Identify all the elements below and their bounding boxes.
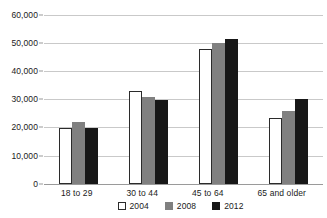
y-axis-tick-mark [39,127,43,128]
y-axis-tick-mark [39,71,43,72]
legend-swatch-icon [118,202,126,210]
legend-item-2004[interactable]: 2004 [118,201,149,211]
y-axis-tick-mark [39,156,43,157]
bar-groups [44,15,323,184]
chart-legend: 200420082012 [0,201,327,211]
bar-2008-65-and-older [282,111,295,184]
legend-label: 2012 [224,201,243,211]
bar-2012-18-to-29 [85,128,98,184]
legend-swatch-icon [165,202,173,210]
legend-label: 2008 [177,201,196,211]
bar-2004-30-to-44 [129,91,142,184]
x-axis-category-label: 18 to 29 [61,188,93,198]
bar-2012-65-and-older [295,99,308,184]
y-axis-tick-mark [39,99,43,100]
x-axis-category-label: 65 and older [258,188,306,198]
y-axis-tick-label: 20,000 [0,122,38,132]
y-axis-tick-label: 50,000 [0,38,38,48]
bar-2004-65-and-older [269,118,282,184]
y-axis-tick-mark [39,43,43,44]
bar-2012-30-to-44 [155,100,168,185]
bar-group [199,15,238,184]
x-axis-baseline [44,184,323,185]
plot-area [44,15,323,184]
legend-item-2012[interactable]: 2012 [212,201,243,211]
y-axis-tick-mark [39,184,43,185]
bar-group [129,15,168,184]
bar-2004-18-to-29 [59,128,72,184]
x-axis-category-label: 45 to 64 [192,188,224,198]
bar-group [59,15,98,184]
y-axis-tick-mark [39,15,43,16]
y-axis-tick-label: 0 [0,179,38,189]
bar-2008-30-to-44 [142,97,155,184]
y-axis-tick-label: 60,000 [0,10,38,20]
y-axis-tick-label: 10,000 [0,151,38,161]
legend-label: 2004 [130,201,149,211]
bar-group [269,15,308,184]
x-axis-category-label: 30 to 44 [127,188,159,198]
y-axis-labels: 60,000 50,000 40,000 30,000 20,000 10,00… [0,0,40,218]
bar-2008-45-to-64 [212,43,225,184]
legend-item-2008[interactable]: 2008 [165,201,196,211]
bar-2008-18-to-29 [72,122,85,184]
x-axis-labels: 18 to 2930 to 4445 to 6465 and older [44,188,323,198]
y-axis-tick-label: 30,000 [0,94,38,104]
bar-chart: 60,000 50,000 40,000 30,000 20,000 10,00… [0,0,327,218]
y-axis-tick-label: 40,000 [0,66,38,76]
legend-swatch-icon [212,202,220,210]
bar-2012-45-to-64 [225,39,238,184]
bar-2004-45-to-64 [199,49,212,184]
